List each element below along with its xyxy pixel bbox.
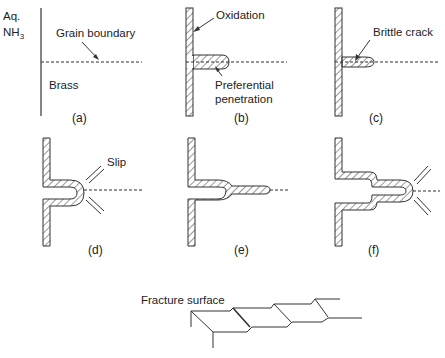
panel-f xyxy=(335,138,440,246)
env-label-subscript: 3 xyxy=(20,32,24,41)
brittle-crack-label: Brittle crack xyxy=(373,26,433,39)
panel-a xyxy=(41,8,142,116)
panel-c xyxy=(335,8,440,116)
brass-label: Brass xyxy=(49,79,78,92)
caption-c: (c) xyxy=(369,111,383,125)
slip-label: Slip xyxy=(107,156,126,169)
env-label-line2: NH3 xyxy=(3,26,24,43)
caption-e: (e) xyxy=(234,243,249,257)
panel-e xyxy=(188,138,288,246)
env-label-line1: Aq. xyxy=(3,10,20,23)
penetration-label: penetration xyxy=(215,93,273,106)
caption-f: (f) xyxy=(368,243,379,257)
caption-a: (a) xyxy=(72,111,87,125)
fracture-surface-label: Fracture surface xyxy=(141,294,225,307)
grain-boundary-label: Grain boundary xyxy=(56,27,135,40)
env-label-nh: NH xyxy=(3,26,20,38)
panel-d xyxy=(43,138,143,246)
oxidation-label: Oxidation xyxy=(216,9,265,22)
preferential-label: Preferential xyxy=(215,79,274,92)
caption-d: (d) xyxy=(88,243,103,257)
caption-b: (b) xyxy=(234,111,249,125)
